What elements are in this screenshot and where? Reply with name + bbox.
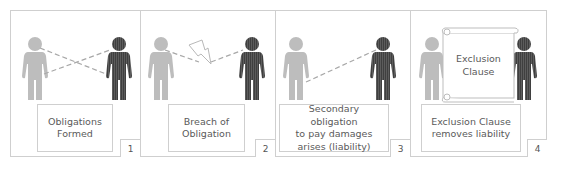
panel-3-caption: Secondary obligationto pay damagesarises… [279, 104, 389, 152]
person-dark-icon [511, 37, 537, 100]
person-dark-icon [370, 37, 396, 100]
scroll-text: Exclusion [456, 53, 501, 64]
panel-number: 4 [527, 139, 547, 157]
broken-obligation-line-icon [211, 50, 243, 62]
obligation-line-icon [44, 50, 110, 74]
panel-1: ObligationsFormed 1 [10, 10, 141, 157]
caption-text: arises (liability) [298, 141, 371, 152]
panel-number: 2 [255, 139, 275, 157]
caption-text: Formed [57, 128, 93, 139]
panel-4: ExclusionClause Exclusion Clauseremoves … [411, 10, 547, 157]
caption-text: Secondary obligation [309, 103, 359, 127]
person-light-icon [22, 37, 48, 100]
caption-text: Exclusion Clause [431, 116, 511, 127]
person-dark-icon [106, 37, 132, 100]
liability-line-icon [306, 50, 376, 82]
caption-text: Breach of [184, 116, 229, 127]
scroll-label: ExclusionClause [443, 43, 514, 88]
person-dark-icon [239, 37, 265, 100]
panel-number: 3 [390, 139, 410, 157]
person-light-icon [283, 37, 309, 100]
panel-2-caption: Breach ofObligation [168, 104, 245, 152]
person-light-icon [148, 37, 174, 100]
panel-1-caption: ObligationsFormed [37, 104, 113, 152]
scroll-text: Clause [463, 66, 495, 77]
panel-4-caption: Exclusion Clauseremoves liability [421, 104, 521, 152]
caption-text: to pay damages [296, 128, 373, 139]
panel-3: Secondary obligationto pay damagesarises… [276, 10, 411, 157]
caption-text: Obligation [182, 128, 231, 139]
caption-text: removes liability [432, 128, 510, 139]
lightning-bolt-icon [189, 40, 211, 64]
panel-number: 1 [120, 139, 140, 157]
panel-2: Breach ofObligation 2 [141, 10, 276, 157]
obligation-line-icon [40, 48, 106, 74]
caption-text: Obligations [48, 116, 102, 127]
person-light-icon [419, 37, 445, 100]
